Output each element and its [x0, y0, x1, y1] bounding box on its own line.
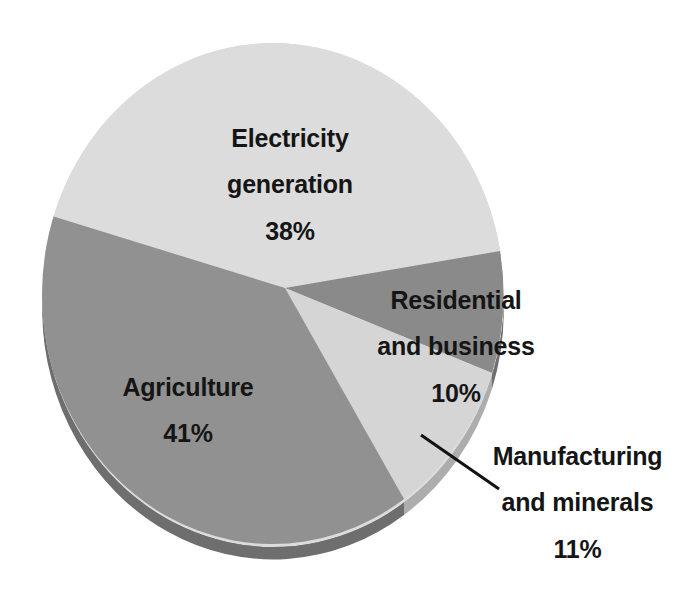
pie-chart: Electricity generation 38% Residential a…	[0, 0, 691, 606]
pie-label-manufacturing-and-minerals-line1: Manufacturing	[470, 442, 685, 470]
pie-label-agriculture-line1: Agriculture	[88, 373, 288, 401]
pie-label-manufacturing-and-minerals-line2: and minerals	[470, 488, 685, 516]
pie-label-agriculture: Agriculture 41%	[88, 355, 288, 466]
pie-label-residential-and-business-line1: Residential	[356, 286, 556, 314]
pie-label-residential-and-business-line2: and business	[356, 332, 556, 360]
pie-label-electricity-generation-line1: Electricity	[175, 124, 405, 152]
pie-label-electricity-generation-line2: generation	[175, 170, 405, 198]
pie-value-manufacturing-and-minerals: 11%	[470, 535, 685, 563]
pie-label-electricity-generation: Electricity generation 38%	[175, 106, 405, 263]
pie-value-electricity-generation: 38%	[175, 217, 405, 245]
pie-label-residential-and-business: Residential and business 10%	[356, 268, 556, 425]
pie-label-manufacturing-and-minerals: Manufacturing and minerals 11%	[470, 424, 685, 581]
pie-value-agriculture: 41%	[88, 419, 288, 447]
pie-value-residential-and-business: 10%	[356, 379, 556, 407]
